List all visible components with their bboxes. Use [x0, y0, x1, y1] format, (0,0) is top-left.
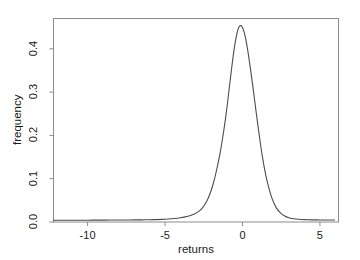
- y-tick-label: 0.4: [27, 35, 38, 61]
- x-tick-label: 5: [300, 230, 340, 241]
- y-tick-label: 0.1: [27, 165, 38, 191]
- x-tick-label: 0: [222, 230, 262, 241]
- x-axis-title: returns: [136, 244, 256, 256]
- y-tick-label: 0.2: [27, 122, 38, 148]
- y-axis-tick-marks: [50, 49, 54, 222]
- plot-frame: [54, 19, 339, 223]
- density-curve-line: [54, 26, 335, 221]
- x-tick-label: -10: [68, 230, 108, 241]
- y-tick-label: 0.0: [27, 209, 38, 235]
- plot-canvas: [0, 0, 360, 260]
- density-plot-figure: 0.00.10.20.30.4 -10-505 frequency return…: [0, 0, 360, 260]
- x-axis-tick-marks: [88, 222, 320, 226]
- y-tick-label: 0.3: [27, 79, 38, 105]
- y-axis-title: frequency: [12, 65, 24, 175]
- x-tick-label: -5: [145, 230, 185, 241]
